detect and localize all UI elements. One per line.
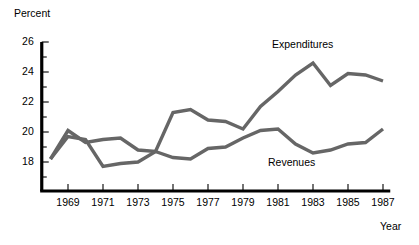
chart-container: Percent Year Expenditures Revenues 18202… xyxy=(0,0,419,245)
series-line-expenditures xyxy=(51,63,384,159)
plot-area xyxy=(0,0,419,245)
series-line-revenues xyxy=(51,129,384,167)
